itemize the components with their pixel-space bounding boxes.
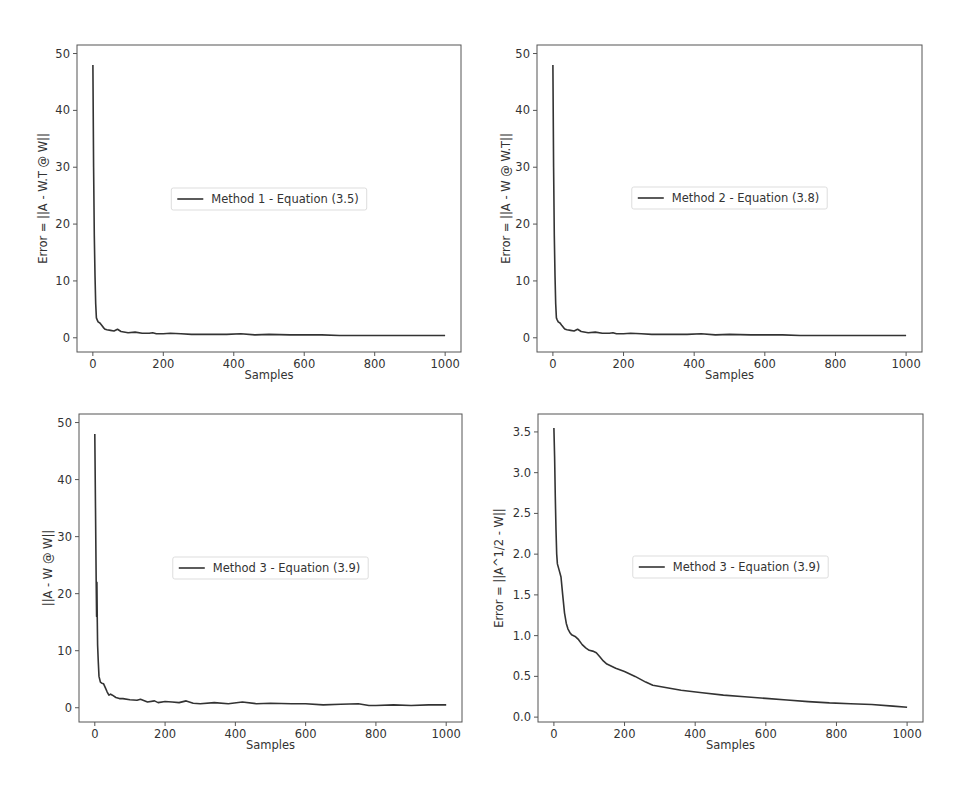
y-tick-label: 3.0 — [513, 466, 531, 480]
subplot-top-left: 0200400600800100001020304050SamplesError… — [36, 45, 461, 382]
y-tick-label: 20 — [55, 217, 70, 231]
x-axis-label: Samples — [246, 738, 295, 752]
x-tick-label: 0 — [89, 357, 96, 371]
y-axis-label: Error = ||A^1/2 - W|| — [492, 508, 506, 627]
y-tick-label: 3.5 — [513, 425, 531, 439]
x-tick-label: 400 — [683, 357, 705, 371]
x-tick-label: 200 — [613, 357, 635, 371]
y-tick-label: 2.5 — [513, 506, 531, 520]
y-axis-label: Error = ||A - W @ W.T|| — [499, 133, 513, 264]
x-tick-label: 200 — [152, 357, 174, 371]
x-tick-label: 600 — [293, 357, 315, 371]
y-tick-label: 10 — [515, 274, 530, 288]
y-axis-label: Error = ||A - W.T @ W|| — [36, 133, 50, 264]
x-axis-label: Samples — [244, 368, 293, 382]
x-tick-label: 600 — [295, 727, 317, 741]
x-tick-label: 600 — [755, 727, 777, 741]
y-tick-label: 0 — [65, 701, 72, 715]
x-tick-label: 0 — [549, 357, 556, 371]
x-tick-label: 1000 — [432, 727, 461, 741]
x-tick-label: 600 — [754, 357, 776, 371]
x-axis-label: Samples — [705, 368, 754, 382]
y-tick-label: 0 — [63, 331, 70, 345]
y-axis-label: ||A - W @ W|| — [41, 530, 55, 606]
x-tick-label: 400 — [223, 357, 245, 371]
x-tick-label: 800 — [824, 357, 846, 371]
x-tick-label: 1000 — [891, 357, 920, 371]
subplot-bottom-left: 0200400600800100001020304050Samples||A -… — [41, 414, 462, 752]
x-tick-label: 400 — [224, 727, 246, 741]
y-tick-label: 20 — [515, 217, 530, 231]
legend-label: Method 3 - Equation (3.9) — [673, 560, 820, 574]
y-tick-label: 0 — [523, 331, 530, 345]
legend-label: Method 1 - Equation (3.5) — [211, 192, 358, 206]
x-tick-label: 200 — [614, 727, 636, 741]
subplot-bottom-right: 020040060080010000.00.51.01.52.02.53.03.… — [492, 414, 923, 752]
y-tick-label: 30 — [515, 160, 530, 174]
x-axis-label: Samples — [706, 738, 755, 752]
x-tick-label: 0 — [91, 727, 98, 741]
legend: Method 1 - Equation (3.5) — [171, 188, 366, 210]
x-tick-label: 1000 — [892, 727, 921, 741]
x-tick-label: 800 — [364, 357, 386, 371]
legend: Method 3 - Equation (3.9) — [173, 557, 368, 579]
y-tick-label: 2.0 — [513, 547, 531, 561]
y-tick-label: 50 — [57, 416, 72, 430]
y-tick-label: 20 — [57, 587, 72, 601]
y-tick-label: 0.0 — [513, 710, 531, 724]
y-tick-label: 40 — [515, 103, 530, 117]
x-tick-label: 800 — [365, 727, 387, 741]
legend-label: Method 3 - Equation (3.9) — [213, 561, 360, 575]
x-tick-label: 1000 — [431, 357, 460, 371]
x-tick-label: 0 — [550, 727, 557, 741]
y-tick-label: 40 — [57, 473, 72, 487]
y-tick-label: 50 — [515, 47, 530, 61]
x-tick-label: 200 — [154, 727, 176, 741]
x-tick-label: 800 — [825, 727, 847, 741]
figure: 0200400600800100001020304050SamplesError… — [0, 0, 957, 786]
y-tick-label: 30 — [55, 160, 70, 174]
y-tick-label: 40 — [55, 103, 70, 117]
y-tick-label: 1.0 — [513, 629, 531, 643]
y-tick-label: 0.5 — [513, 669, 531, 683]
legend: Method 2 - Equation (3.8) — [632, 187, 827, 209]
y-tick-label: 30 — [57, 530, 72, 544]
y-tick-label: 50 — [55, 47, 70, 61]
x-tick-label: 400 — [684, 727, 706, 741]
y-tick-label: 10 — [55, 274, 70, 288]
y-tick-label: 10 — [57, 644, 72, 658]
subplot-top-right: 0200400600800100001020304050SamplesError… — [499, 45, 922, 382]
legend-label: Method 2 - Equation (3.8) — [672, 191, 819, 205]
y-tick-label: 1.5 — [513, 588, 531, 602]
legend: Method 3 - Equation (3.9) — [633, 556, 828, 578]
